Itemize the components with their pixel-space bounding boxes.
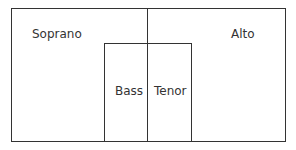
alto-label: Alto	[231, 27, 255, 41]
inner-left-edge	[104, 43, 105, 142]
outer-bottom-edge	[11, 141, 286, 142]
tenor-label: Tenor	[154, 84, 187, 98]
outer-right-edge	[285, 8, 286, 142]
inner-right-edge	[191, 43, 192, 142]
inner-top-edge	[104, 43, 192, 44]
soprano-label: Soprano	[32, 27, 82, 41]
center-divider	[147, 8, 148, 142]
outer-left-edge	[11, 8, 12, 142]
outer-top-edge	[11, 8, 286, 9]
bass-label: Bass	[115, 84, 143, 98]
